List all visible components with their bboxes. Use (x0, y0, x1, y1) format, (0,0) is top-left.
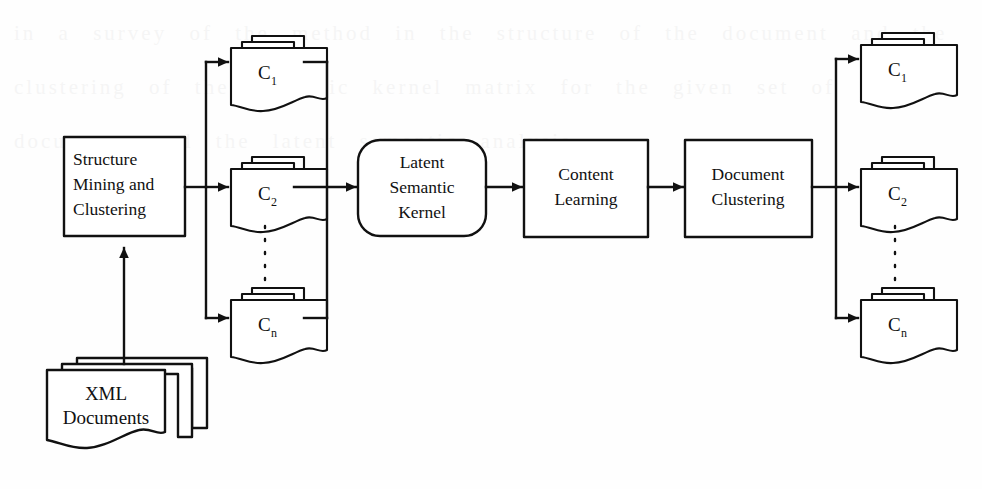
output-cluster-1-subscript: 1 (901, 71, 907, 85)
connector-document-clustering-to-output-clusters (812, 59, 858, 318)
structure-cluster-stack-n (231, 288, 327, 363)
structure-cluster-stack-1 (231, 36, 327, 111)
output-cluster-stack-n (861, 288, 957, 363)
structure-mining-label-line3: Clustering (73, 199, 146, 219)
output-cluster-1-label: C (888, 59, 901, 80)
latent-semantic-kernel-label-line3: Kernel (398, 202, 446, 222)
structure-cluster-n-label: C (258, 314, 271, 335)
figure-canvas: in a survey of the method in the structu… (0, 0, 982, 489)
connector-structure-mining-to-clusters (185, 62, 228, 318)
document-clustering-label-line1: Document (712, 164, 785, 184)
output-cluster-2-label: C (888, 183, 901, 204)
input-documents-label-line1: XML (85, 383, 127, 404)
output-cluster-n-subscript: n (901, 326, 907, 340)
structure-cluster-n-subscript: n (271, 326, 277, 340)
output-cluster-2-subscript: 2 (901, 195, 907, 209)
output-cluster-stack-1 (861, 33, 957, 108)
latent-semantic-kernel-label-line2: Semantic (389, 177, 454, 197)
structure-mining-label-line1: Structure (73, 149, 137, 169)
output-cluster-n-label: C (888, 314, 901, 335)
input-documents-label-line2: Documents (63, 407, 150, 428)
structure-cluster-2-subscript: 2 (271, 195, 277, 209)
structure-cluster-2-label: C (258, 183, 271, 204)
flow-diagram: XML Documents Structure Mining and Clust… (0, 0, 982, 489)
content-learning-label-line2: Learning (554, 189, 617, 209)
structure-cluster-1-subscript: 1 (271, 74, 277, 88)
output-cluster-stack-2 (861, 157, 957, 232)
document-clustering-label-line2: Clustering (712, 189, 785, 209)
structure-cluster-1-label: C (258, 62, 271, 83)
content-learning-label-line1: Content (558, 164, 614, 184)
structure-mining-label-line2: Mining and (73, 174, 154, 194)
structure-cluster-stack-2 (231, 157, 327, 232)
latent-semantic-kernel-label-line1: Latent (400, 152, 445, 172)
